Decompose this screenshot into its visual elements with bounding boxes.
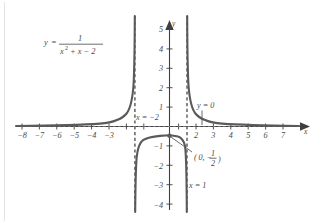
y-tick-label: 4	[159, 45, 163, 54]
x-tick-labels: −8 −7 −6 −5 −4 −3 2 3 4 5 6 7	[17, 131, 286, 140]
equation-equals: =	[51, 38, 57, 47]
x-tick-label: −4	[87, 131, 97, 140]
point-label-group: ( 0, − 1 2 )	[194, 149, 221, 168]
curve-branch-left	[16, 16, 135, 126]
equation-label: y = 1 x 2 + x − 2	[43, 34, 103, 56]
x-tick-label: −7	[35, 131, 46, 140]
y-tick-label: 1	[159, 103, 163, 112]
y-tick-label: −1	[153, 142, 163, 151]
equation-denominator-rest: + x − 2	[70, 47, 96, 56]
point-label-frac-denominator: 2	[211, 159, 215, 168]
x-tick-label: 2	[194, 131, 198, 140]
function-plot: −8 −7 −6 −5 −4 −3 2 3 4 5 6 7 5 4 3 2 1 …	[0, 0, 322, 223]
x-tick-label: −8	[17, 131, 27, 140]
y-tick-label: −3	[153, 181, 163, 190]
y-tick-label: −2	[153, 162, 163, 171]
x-tick-label: −6	[52, 131, 63, 140]
equation-denominator-x: x	[59, 47, 64, 56]
x-tick-label: 7	[281, 131, 286, 140]
x-tick-label: 3	[210, 131, 215, 140]
y-tick-label: 2	[159, 84, 163, 93]
x-tick-label: 5	[246, 131, 250, 140]
x-tick-label: −3	[104, 131, 114, 140]
point-label-frac-numerator: 1	[211, 149, 215, 158]
x-tick-label: 6	[264, 131, 269, 140]
y-axis-name: y	[171, 19, 176, 28]
y-tick-label: 3	[158, 64, 163, 73]
y-tick-label: 5	[159, 25, 163, 34]
x-axis-name: x	[303, 127, 308, 136]
annotation-vertical-asymptote-left: x = −2	[135, 113, 159, 122]
left-margin-rule	[4, 2, 5, 221]
point-label-open-paren: (	[194, 153, 198, 162]
equation-lhs: y	[43, 38, 48, 47]
point-label-x-value: 0,	[199, 153, 205, 162]
graph-figure: −8 −7 −6 −5 −4 −3 2 3 4 5 6 7 5 4 3 2 1 …	[0, 0, 322, 223]
annotation-horizontal-asymptote: y = 0	[196, 101, 214, 110]
point-label-close-paren: )	[217, 155, 221, 164]
y-tick-label: −4	[153, 201, 163, 210]
annotation-vertical-asymptote-right: x = 1	[188, 181, 206, 190]
equation-numerator: 1	[78, 34, 82, 43]
x-tick-label: 4	[229, 131, 233, 140]
equation-denominator-exponent: 2	[65, 45, 68, 51]
x-tick-label: −5	[69, 131, 79, 140]
